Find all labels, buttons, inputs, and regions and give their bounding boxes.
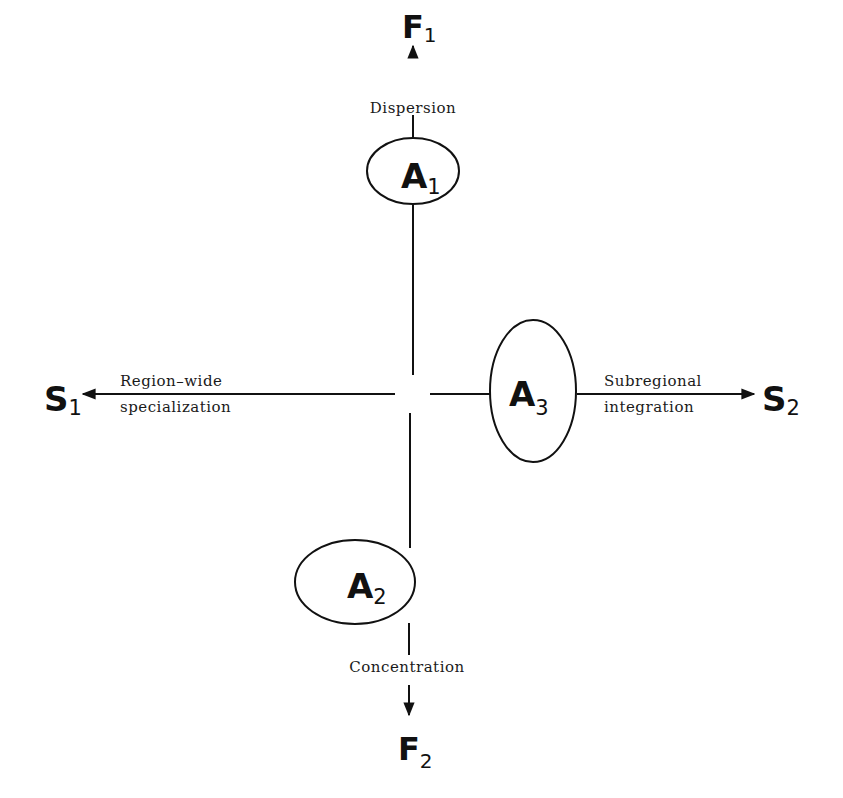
label-specialization: specialization [120,398,231,416]
label-dispersion: Dispersion [370,99,456,117]
axes-diagram: F1 A1 A2 A3 S1 S2 F2 Dispersion Concentr… [0,0,843,798]
label-concentration: Concentration [349,658,464,676]
label-region-wide: Region–wide [120,372,222,390]
label-integration: integration [604,398,694,416]
node-f1-label: F1 [402,8,437,47]
node-s2-label: S2 [762,379,800,420]
node-f2-label: F2 [398,730,433,773]
label-subregional: Subregional [604,372,702,390]
node-s1-label: S1 [44,379,82,420]
